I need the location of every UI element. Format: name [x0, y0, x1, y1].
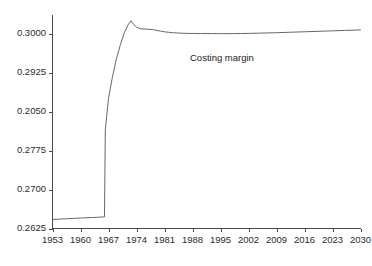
y-axis-tick-label: 0.3000: [2, 28, 46, 38]
y-axis-tick-label: 0.2775: [2, 145, 46, 155]
x-axis-tick-label: 1953: [38, 235, 68, 245]
y-axis-tick-label: 0.2925: [2, 67, 46, 77]
y-axis-tick-label: 0.2050: [2, 106, 46, 116]
x-axis-tick-label: 2016: [290, 235, 320, 245]
x-axis-tick-label: 2030: [346, 235, 372, 245]
y-axis-tick-marks: [49, 35, 53, 230]
axis-lines: [53, 15, 361, 229]
x-axis-tick-label: 1981: [150, 235, 180, 245]
x-axis-tick-label: 2023: [318, 235, 348, 245]
x-axis-tick-label: 1960: [66, 235, 96, 245]
x-axis-tick-label: 2009: [262, 235, 292, 245]
x-axis-tick-label: 1967: [94, 235, 124, 245]
x-axis-tick-marks: [54, 229, 362, 233]
y-axis-tick-label: 0.2625: [2, 223, 46, 233]
x-axis-tick-label: 2002: [234, 235, 264, 245]
y-axis-tick-label: 0.2700: [2, 184, 46, 194]
chart-figure: 0.30000.29250.20500.27750.27000.2625 195…: [0, 0, 372, 266]
x-axis-tick-label: 1974: [122, 235, 152, 245]
chart-plot-area: [0, 0, 372, 266]
series-line-costing-margin: [53, 21, 361, 220]
x-axis-tick-label: 1995: [206, 235, 236, 245]
costing-margin-label: Costing margin: [190, 52, 254, 63]
x-axis-tick-label: 1988: [178, 235, 208, 245]
